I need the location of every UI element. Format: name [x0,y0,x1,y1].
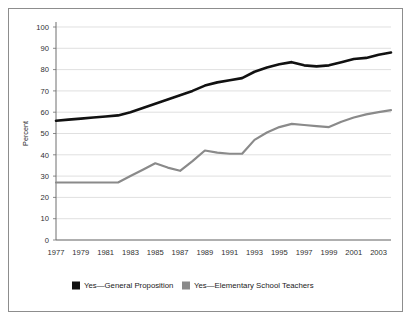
data-series-group [56,53,391,183]
x-tick-label: 1987 [172,248,189,257]
x-tick-label: 1999 [321,248,338,257]
x-tick-label: 2003 [370,248,387,257]
gridlines-group [56,27,391,240]
y-tick-label: 90 [41,44,49,53]
x-tick-label: 1989 [196,248,213,257]
x-tick-label: 1977 [48,248,65,257]
x-axis-ticks-group: 1977197919811983198519871989199119931995… [48,248,387,257]
x-tick-label: 1995 [271,248,288,257]
legend-swatch [182,282,190,290]
series-line [56,53,391,121]
x-tick-label: 1993 [246,248,263,257]
x-tick-label: 2001 [345,248,362,257]
line-chart: 0102030405060708090100 19771979198119831… [8,8,403,312]
x-tick-label: 1985 [147,248,164,257]
legend-swatch [72,282,80,290]
y-tick-label: 80 [41,65,49,74]
y-tick-label: 60 [41,108,49,117]
y-tick-label: 70 [41,87,49,96]
chart-legend: Yes—General PropositionYes—Elementary Sc… [72,281,314,290]
x-tick-label: 1983 [122,248,139,257]
x-tick-label: 1991 [221,248,238,257]
x-tick-label: 1981 [97,248,114,257]
y-tick-label: 40 [41,151,49,160]
y-tick-label: 30 [41,172,49,181]
series-line [56,110,391,182]
y-axis-title: Percent [21,121,30,146]
y-tick-label: 50 [41,129,49,138]
y-tick-label: 20 [41,193,49,202]
y-tick-label: 0 [45,236,49,245]
y-tick-label: 10 [41,214,49,223]
y-tick-label: 100 [36,23,49,32]
y-axis-ticks-group: 0102030405060708090100 [36,23,56,245]
legend-label: Yes—Elementary School Teachers [194,281,314,290]
legend-label: Yes—General Proposition [84,281,173,290]
x-tick-label: 1997 [296,248,313,257]
x-tick-label: 1979 [72,248,89,257]
chart-figure: 0102030405060708090100 19771979198119831… [0,0,411,320]
